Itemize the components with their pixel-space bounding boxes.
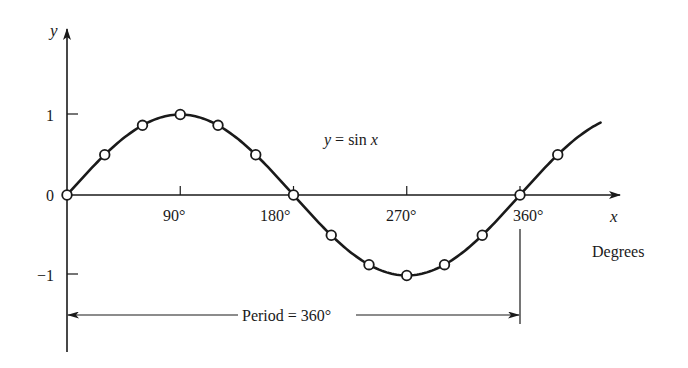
x-tick-label-180: 180° (260, 207, 290, 224)
y-tick-label-1: 1 (46, 107, 54, 124)
x-ticks (180, 186, 520, 195)
x-tick-label-270: 270° (386, 207, 416, 224)
data-point-marker (138, 120, 148, 130)
data-point-marker (364, 260, 374, 270)
data-point-marker (251, 150, 261, 160)
data-point-marker (289, 190, 299, 200)
x-tick-label-360: 360° (513, 207, 543, 224)
units-label: Degrees (592, 243, 644, 261)
y-tick-label-0: 0 (46, 187, 54, 204)
x-tick-label-90: 90° (163, 207, 185, 224)
data-point-marker (515, 190, 525, 200)
y-tick-label-minus1: −1 (37, 267, 54, 284)
sine-chart: y 1 0 −1 90° 180° 270° 360° x Degrees y … (0, 0, 688, 368)
data-point-marker (100, 150, 110, 160)
data-point-marker (175, 110, 185, 120)
data-point-marker (553, 150, 563, 160)
data-point-marker (402, 271, 412, 281)
y-axis-label: y (48, 21, 58, 40)
data-point-marker (326, 230, 336, 240)
data-point-marker (440, 260, 450, 270)
data-point-marker (62, 190, 72, 200)
period-label: Period = 360° (242, 307, 331, 324)
x-axis-label: x (609, 207, 618, 226)
data-point-marker (477, 230, 487, 240)
data-point-marker (213, 120, 223, 130)
equation-label: y = sin x (322, 131, 378, 149)
